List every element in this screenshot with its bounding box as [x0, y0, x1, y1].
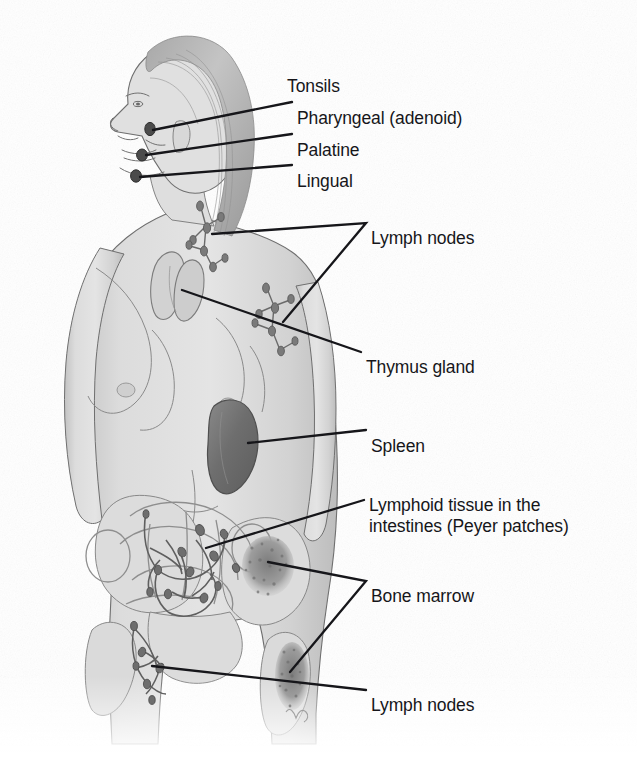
label-peyer-patches-line2: intestines (Peyer patches) — [369, 516, 569, 536]
label-pharyngeal-adenoid: Pharyngeal (adenoid) — [297, 108, 462, 129]
label-peyer-patches-line1: Lymphoid tissue in the — [369, 495, 540, 515]
label-peyer-patches: Lymphoid tissue in the intestines (Peyer… — [369, 495, 637, 537]
label-spleen: Spleen — [371, 436, 425, 457]
eye — [136, 102, 140, 105]
bottom-fade — [0, 676, 637, 757]
label-lymph-nodes-lower: Lymph nodes — [371, 695, 474, 716]
label-palatine: Palatine — [297, 140, 359, 161]
label-thymus-gland: Thymus gland — [366, 357, 475, 378]
thymus-gland-organ — [151, 252, 204, 321]
label-lymph-nodes-upper: Lymph nodes — [371, 228, 474, 249]
femur-bone-marrow — [275, 642, 309, 710]
label-lingual: Lingual — [297, 171, 353, 192]
label-tonsils: Tonsils — [287, 76, 340, 97]
label-bone-marrow: Bone marrow — [371, 586, 474, 607]
